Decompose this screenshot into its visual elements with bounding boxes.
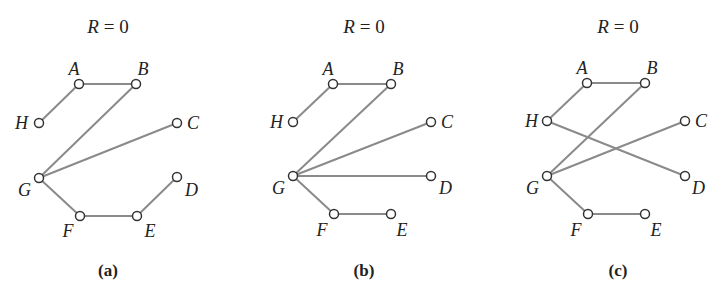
edge-C-G	[39, 123, 177, 178]
node-C	[427, 118, 436, 127]
panel-b: R = 0ABHCGDFE(b)	[269, 16, 454, 280]
edge-H-A	[547, 83, 587, 121]
edge-B-G	[547, 83, 645, 176]
node-F	[76, 212, 85, 221]
node-label-C: C	[695, 111, 708, 131]
node-label-A: A	[576, 58, 589, 78]
node-label-D: D	[184, 180, 198, 200]
node-label-H: H	[269, 112, 284, 132]
panel-title: R = 0	[596, 16, 638, 37]
node-D	[427, 172, 436, 181]
node-label-B: B	[138, 59, 149, 79]
edge-H-A	[39, 84, 79, 123]
node-label-B: B	[393, 59, 404, 79]
edge-G-F	[293, 176, 334, 214]
node-label-C: C	[441, 112, 454, 132]
node-F	[584, 210, 593, 219]
node-label-H: H	[524, 111, 539, 131]
node-label-F: F	[570, 220, 583, 240]
node-E	[387, 210, 396, 219]
node-F	[330, 210, 339, 219]
node-D	[173, 173, 182, 182]
node-label-A: A	[322, 59, 335, 79]
node-B	[641, 79, 650, 88]
edge-B-G	[39, 84, 136, 178]
node-label-F: F	[62, 221, 75, 241]
node-A	[75, 80, 84, 89]
node-C	[681, 117, 690, 126]
node-label-D: D	[691, 178, 705, 198]
edge-B-G	[293, 84, 391, 176]
graph-figure: R = 0ABHCGDFE(a)R = 0ABHCGDFE(b)R = 0ABH…	[0, 0, 720, 296]
edge-C-G	[293, 122, 431, 176]
node-H	[35, 119, 44, 128]
node-H	[289, 118, 298, 127]
node-G	[289, 172, 298, 181]
node-G	[35, 174, 44, 183]
node-A	[329, 80, 338, 89]
node-label-C: C	[187, 113, 200, 133]
node-H	[543, 117, 552, 126]
node-label-F: F	[316, 220, 329, 240]
node-E	[133, 212, 142, 221]
edge-G-F	[547, 176, 588, 214]
node-D	[681, 172, 690, 181]
panel-a: R = 0ABHCGDFE(a)	[14, 16, 200, 280]
panel-caption: (b)	[354, 261, 375, 280]
node-label-E: E	[144, 221, 156, 241]
node-label-H: H	[14, 113, 29, 133]
node-label-D: D	[438, 178, 452, 198]
node-C	[173, 119, 182, 128]
node-G	[543, 172, 552, 181]
panel-caption: (a)	[98, 261, 118, 280]
node-label-G: G	[272, 178, 285, 198]
node-label-E: E	[650, 220, 662, 240]
node-E	[641, 210, 650, 219]
edge-H-A	[293, 84, 333, 122]
edge-G-F	[39, 178, 80, 216]
panel-c: R = 0ABHCGDFE(c)	[524, 16, 708, 280]
node-label-G: G	[18, 180, 31, 200]
panel-caption: (c)	[609, 261, 628, 280]
panel-title: R = 0	[342, 16, 384, 37]
node-B	[132, 80, 141, 89]
edge-E-D	[137, 177, 177, 216]
panel-title: R = 0	[86, 16, 128, 37]
node-label-E: E	[396, 220, 408, 240]
node-label-G: G	[526, 178, 539, 198]
node-label-B: B	[647, 58, 658, 78]
node-A	[583, 79, 592, 88]
node-B	[387, 80, 396, 89]
node-label-A: A	[68, 59, 81, 79]
